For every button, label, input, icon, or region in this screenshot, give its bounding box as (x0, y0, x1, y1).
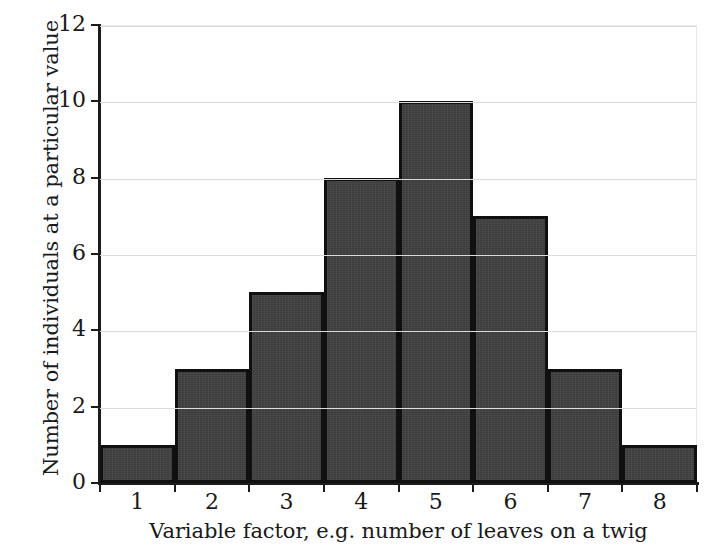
y-tick-label: 0 (50, 471, 86, 493)
histogram-bar (622, 445, 697, 483)
x-tick-mark (547, 483, 549, 492)
x-tick-mark (621, 483, 623, 492)
histogram-figure: Number of individuals at a particular va… (0, 0, 721, 558)
histogram-bar (399, 101, 474, 483)
x-tick-mark (248, 483, 250, 492)
gridline (100, 26, 696, 27)
histogram-bar (324, 178, 399, 483)
x-tick-label: 5 (406, 490, 466, 514)
x-tick-label: 1 (107, 490, 167, 514)
histogram-bar (548, 369, 623, 484)
histogram-bar (249, 292, 324, 483)
plot-area (100, 25, 697, 483)
x-tick-mark (696, 483, 698, 492)
x-tick-label: 3 (257, 490, 317, 514)
x-tick-mark (99, 483, 101, 492)
y-axis-line (98, 24, 101, 485)
x-tick-mark (398, 483, 400, 492)
x-tick-label: 2 (182, 490, 242, 514)
x-tick-mark (174, 483, 176, 492)
histogram-bar (100, 445, 175, 483)
x-axis-title: Variable factor, e.g. number of leaves o… (100, 518, 697, 544)
y-tick-label: 12 (50, 13, 86, 35)
histogram-bar (473, 216, 548, 483)
y-tick-label: 2 (50, 395, 86, 417)
x-tick-mark (472, 483, 474, 492)
y-tick-label: 8 (50, 166, 86, 188)
y-tick-label: 4 (50, 318, 86, 340)
x-tick-label: 4 (331, 490, 391, 514)
x-tick-label: 8 (630, 490, 690, 514)
histogram-bar (175, 369, 250, 484)
y-tick-label: 6 (50, 242, 86, 264)
x-tick-mark (323, 483, 325, 492)
x-tick-label: 6 (480, 490, 540, 514)
x-tick-label: 7 (555, 490, 615, 514)
y-tick-label: 10 (50, 89, 86, 111)
